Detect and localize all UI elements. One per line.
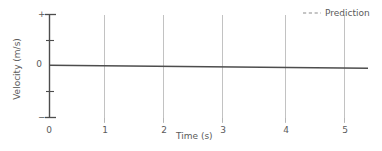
xtick-label-0: 0 (46, 126, 52, 135)
ytick-label-plus: + (38, 10, 46, 19)
prediction-data-line (49, 65, 368, 68)
ytick-label-zero: 0 (26, 60, 42, 69)
ytick-label-minus: − (38, 113, 46, 122)
dashed-line-icon (303, 9, 321, 17)
xtick-label-5: 5 (342, 126, 348, 135)
velocity-time-chart: + 0 − 0 1 2 3 4 5 Velocity (m/s) Time (s… (0, 0, 382, 151)
xtick-label-3: 3 (220, 126, 226, 135)
gridlines (105, 15, 345, 122)
xtick-label-1: 1 (102, 126, 108, 135)
legend: Prediction (303, 8, 370, 18)
xtick-label-2: 2 (161, 126, 167, 135)
legend-label-prediction: Prediction (325, 8, 370, 18)
xtick-label-4: 4 (283, 126, 289, 135)
plot-canvas (0, 0, 382, 151)
x-axis-title: Time (s) (176, 131, 213, 141)
time-axis-ticks (105, 118, 345, 123)
y-axis-title: Velocity (m/s) (12, 24, 22, 114)
